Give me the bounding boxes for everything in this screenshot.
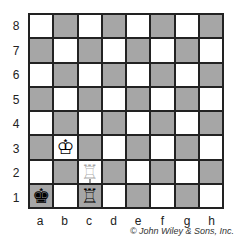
file-label: d [102,214,126,228]
square-h3[interactable] [199,135,223,159]
square-b3[interactable]: ♔ [53,135,77,159]
square-h2[interactable] [199,160,223,184]
square-e2[interactable] [126,160,150,184]
square-d7[interactable] [102,38,126,62]
square-h1[interactable] [199,184,223,208]
black-king-icon[interactable]: ♚ [32,186,50,206]
square-b7[interactable] [53,38,77,62]
square-d6[interactable] [102,63,126,87]
square-b1[interactable] [53,184,77,208]
square-h7[interactable] [199,38,223,62]
square-g1[interactable] [175,184,199,208]
square-e4[interactable] [126,111,150,135]
square-f6[interactable] [150,63,174,87]
square-a4[interactable] [29,111,53,135]
rank-label: 6 [10,68,22,82]
square-g7[interactable] [175,38,199,62]
square-a8[interactable] [29,14,53,38]
file-label: a [28,214,52,228]
rank-label: 2 [10,166,22,180]
white-king-icon[interactable]: ♔ [56,137,74,157]
square-c4[interactable] [78,111,102,135]
square-g3[interactable] [175,135,199,159]
square-d3[interactable] [102,135,126,159]
square-g2[interactable] [175,160,199,184]
file-label: c [77,214,101,228]
square-b4[interactable] [53,111,77,135]
square-f7[interactable] [150,38,174,62]
square-h8[interactable] [199,14,223,38]
square-b2[interactable] [53,160,77,184]
white-rook-icon[interactable]: ♖ [81,186,99,206]
square-e8[interactable] [126,14,150,38]
square-c3[interactable] [78,135,102,159]
square-b8[interactable] [53,14,77,38]
square-a6[interactable] [29,63,53,87]
square-c1[interactable]: ♖ [78,184,102,208]
chess-board: ♔♖♚♖ [28,13,224,209]
rank-label: 4 [10,117,22,131]
square-e1[interactable] [126,184,150,208]
square-c6[interactable] [78,63,102,87]
square-d4[interactable] [102,111,126,135]
square-c5[interactable] [78,87,102,111]
rank-label: 7 [10,44,22,58]
square-a2[interactable] [29,160,53,184]
rank-label: 3 [10,142,22,156]
square-b6[interactable] [53,63,77,87]
square-h4[interactable] [199,111,223,135]
square-h6[interactable] [199,63,223,87]
square-a7[interactable] [29,38,53,62]
square-g6[interactable] [175,63,199,87]
copyright-notice: © John Wiley & Sons, Inc. [130,226,234,236]
square-d1[interactable] [102,184,126,208]
square-e7[interactable] [126,38,150,62]
square-d8[interactable] [102,14,126,38]
square-f3[interactable] [150,135,174,159]
square-f1[interactable] [150,184,174,208]
square-b5[interactable] [53,87,77,111]
square-g4[interactable] [175,111,199,135]
square-e5[interactable] [126,87,150,111]
rank-label: 8 [10,19,22,33]
square-d5[interactable] [102,87,126,111]
square-f8[interactable] [150,14,174,38]
square-c2[interactable]: ♖ [78,160,102,184]
square-e3[interactable] [126,135,150,159]
square-f2[interactable] [150,160,174,184]
rank-label: 5 [10,93,22,107]
square-a5[interactable] [29,87,53,111]
file-label: b [53,214,77,228]
square-h5[interactable] [199,87,223,111]
square-a3[interactable] [29,135,53,159]
square-g8[interactable] [175,14,199,38]
square-e6[interactable] [126,63,150,87]
square-c7[interactable] [78,38,102,62]
square-f4[interactable] [150,111,174,135]
square-a1[interactable]: ♚ [29,184,53,208]
rank-label: 1 [10,191,22,205]
square-c8[interactable] [78,14,102,38]
square-g5[interactable] [175,87,199,111]
square-d2[interactable] [102,160,126,184]
square-f5[interactable] [150,87,174,111]
